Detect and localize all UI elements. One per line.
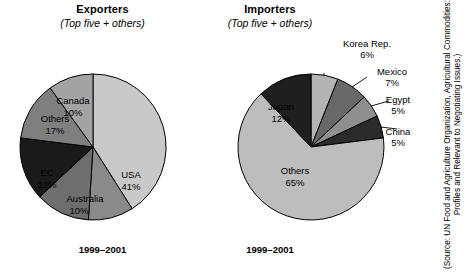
exporters-label-others-pct: 17% xyxy=(45,125,65,136)
exporters-label-usa-name: USA xyxy=(121,169,141,180)
importers-label-others-pct: 65% xyxy=(285,177,305,188)
importers-callout-egypt-name: Egypt xyxy=(372,94,424,105)
exporters-label-canada-name: Canada xyxy=(56,95,90,106)
exporters-label-ec-name: EC xyxy=(40,167,53,178)
importers-callout-china-pct: 5% xyxy=(372,137,424,148)
importers-callout-mexico-pct: 7% xyxy=(363,77,421,88)
importers-period: 1999–2001 xyxy=(165,244,375,255)
importers-callout-korea: Korea Rep. 6% xyxy=(329,38,405,60)
exporters-label-others-name: Others xyxy=(41,113,70,124)
importers-callout-korea-pct: 6% xyxy=(329,49,405,60)
importers-callout-mexico-name: Mexico xyxy=(363,66,421,77)
importers-label-others-name: Others xyxy=(281,165,310,176)
importers-label-japan-pct: 12% xyxy=(271,113,291,124)
importers-callout-korea-name: Korea Rep. xyxy=(329,38,405,49)
exporters-label-usa-pct: 41% xyxy=(121,181,141,192)
exporters-panel: Exporters (Top five + others) xyxy=(0,0,205,273)
importers-subtitle: (Top five + others) xyxy=(165,17,375,29)
pie-chart-figure: Exporters (Top five + others) xyxy=(0,0,471,273)
exporters-label-australia-pct: 10% xyxy=(69,205,89,216)
importers-label-japan-name: Japan xyxy=(268,101,294,112)
importers-callout-egypt: Egypt 5% xyxy=(372,94,424,116)
importers-callout-egypt-pct: 5% xyxy=(372,105,424,116)
exporters-label-australia-name: Australia xyxy=(67,193,105,204)
importers-callout-china: China 5% xyxy=(372,126,424,148)
exporters-label-ec-pct: 12% xyxy=(37,179,57,190)
importers-callout-china-name: China xyxy=(372,126,424,137)
source-note: (Source: UN Food and Agriculture Organiz… xyxy=(436,0,470,273)
importers-callout-mexico: Mexico 7% xyxy=(363,66,421,88)
source-note-text: (Source: UN Food and Agriculture Organiz… xyxy=(443,0,463,271)
exporters-pie: USA 41% Canada 10% Others 17% EC 12% Aus… xyxy=(8,73,184,223)
importers-title: Importers xyxy=(165,3,375,15)
